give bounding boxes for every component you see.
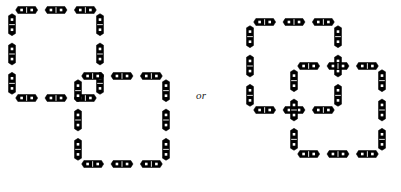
domino-pip — [381, 74, 384, 77]
domino-pip — [302, 153, 305, 156]
domino-pip — [86, 163, 89, 166]
domino-divider — [56, 7, 57, 13]
domino-pip — [11, 87, 14, 90]
domino-pip — [77, 114, 80, 117]
domino-pip — [337, 30, 340, 33]
domino-pip — [20, 97, 23, 100]
domino-pip — [258, 21, 261, 24]
domino-pip — [99, 18, 102, 21]
domino-tile — [82, 73, 104, 80]
domino-tile — [283, 19, 305, 26]
domino-pip — [381, 114, 384, 117]
domino-pip — [337, 89, 340, 92]
domino-pip — [268, 109, 271, 112]
domino-tile — [75, 138, 82, 160]
domino-pip — [145, 75, 148, 78]
domino-pip — [293, 143, 296, 146]
domino-tile — [163, 138, 170, 160]
domino-pip — [288, 109, 291, 112]
domino-divider — [75, 149, 81, 150]
domino-pip — [381, 104, 384, 107]
domino-divider — [56, 95, 57, 101]
domino-divider — [379, 139, 385, 140]
domino-pip — [77, 94, 80, 97]
domino-tile — [75, 80, 82, 102]
domino-pip — [99, 28, 102, 31]
domino-pip — [77, 84, 80, 87]
domino-pip — [337, 99, 340, 102]
domino-pip — [77, 153, 80, 156]
domino-pip — [86, 75, 89, 78]
domino-pip — [30, 97, 33, 100]
domino-pip — [293, 74, 296, 77]
domino-pip — [381, 133, 384, 136]
domino-pip — [89, 97, 92, 100]
domino-divider — [97, 24, 103, 25]
domino-pip — [165, 84, 168, 87]
domino-pip — [126, 75, 129, 78]
domino-divider — [9, 83, 15, 84]
domino-pip — [317, 109, 320, 112]
domino-pip — [298, 109, 301, 112]
domino-tile — [379, 128, 386, 150]
domino-divider — [163, 120, 169, 121]
domino-tile — [356, 63, 378, 70]
domino-tile — [9, 72, 16, 94]
domino-pip — [116, 75, 119, 78]
domino-pip — [337, 70, 340, 73]
domino-pip — [165, 143, 168, 146]
domino-pip — [293, 114, 296, 117]
domino-divider — [85, 7, 86, 13]
domino-pip — [96, 75, 99, 78]
domino-divider — [75, 90, 81, 91]
domino-tile — [298, 63, 320, 70]
domino-loop — [9, 7, 104, 102]
right-figure — [247, 19, 386, 158]
domino-tile — [379, 99, 386, 121]
domino-tile — [298, 151, 320, 158]
domino-divider — [163, 149, 169, 150]
domino-divider — [291, 139, 297, 140]
domino-divider — [122, 161, 123, 167]
domino-pip — [258, 109, 261, 112]
domino-divider — [247, 66, 253, 67]
domino-tile — [140, 161, 162, 168]
domino-tile — [82, 161, 104, 168]
domino-tile — [291, 99, 298, 121]
domino-pip — [77, 143, 80, 146]
domino-divider — [264, 19, 265, 25]
domino-pip — [298, 21, 301, 24]
domino-pip — [99, 87, 102, 90]
domino-tile — [163, 109, 170, 131]
domino-pip — [155, 75, 158, 78]
domino-tile — [163, 80, 170, 102]
domino-divider — [75, 120, 81, 121]
domino-divider — [9, 54, 15, 55]
domino-tile — [111, 161, 133, 168]
domino-tile — [312, 19, 334, 26]
domino-pip — [371, 153, 374, 156]
domino-pip — [116, 163, 119, 166]
domino-pip — [288, 21, 291, 24]
domino-tile — [9, 14, 16, 36]
domino-divider — [335, 36, 341, 37]
domino-pip — [293, 84, 296, 87]
domino-divider — [294, 19, 295, 25]
domino-pip — [165, 153, 168, 156]
domino-tile — [97, 14, 104, 36]
domino-pip — [381, 143, 384, 146]
domino-divider — [323, 19, 324, 25]
domino-divider — [85, 95, 86, 101]
domino-tile — [247, 26, 254, 48]
domino-pip — [249, 60, 252, 63]
domino-tile — [74, 7, 96, 14]
domino-divider — [291, 80, 297, 81]
domino-divider — [264, 107, 265, 113]
domino-pip — [293, 104, 296, 107]
domino-tile — [247, 84, 254, 106]
domino-divider — [338, 151, 339, 157]
domino-pip — [145, 163, 148, 166]
domino-pip — [89, 9, 92, 12]
domino-divider — [308, 151, 309, 157]
domino-tile — [291, 128, 298, 150]
